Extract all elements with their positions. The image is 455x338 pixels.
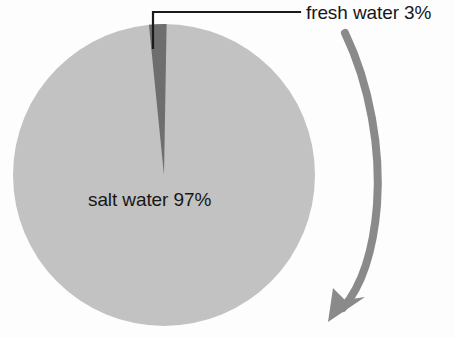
- slice-label-salt-water: salt water 97%: [88, 189, 211, 211]
- slice-label-fresh-water: fresh water 3%: [306, 2, 431, 24]
- pie-chart-graphic: [0, 0, 455, 338]
- curved-arrow-shaft: [343, 33, 378, 308]
- curved-arrow-head: [328, 288, 365, 322]
- pie-chart-figure: fresh water 3% salt water 97%: [0, 0, 455, 338]
